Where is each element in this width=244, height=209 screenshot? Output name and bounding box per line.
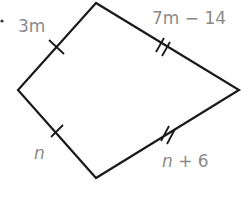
label-bottom-left: n [34, 143, 45, 163]
kite-diagram: 3m 7m − 14 n n + 6 [0, 0, 244, 209]
label-top-left: 3m [18, 16, 45, 36]
label-bottom-right: n + 6 [162, 151, 209, 171]
tick-marks [49, 38, 175, 144]
bullet-dot [0, 19, 3, 22]
label-top-right: 7m − 14 [152, 8, 226, 28]
